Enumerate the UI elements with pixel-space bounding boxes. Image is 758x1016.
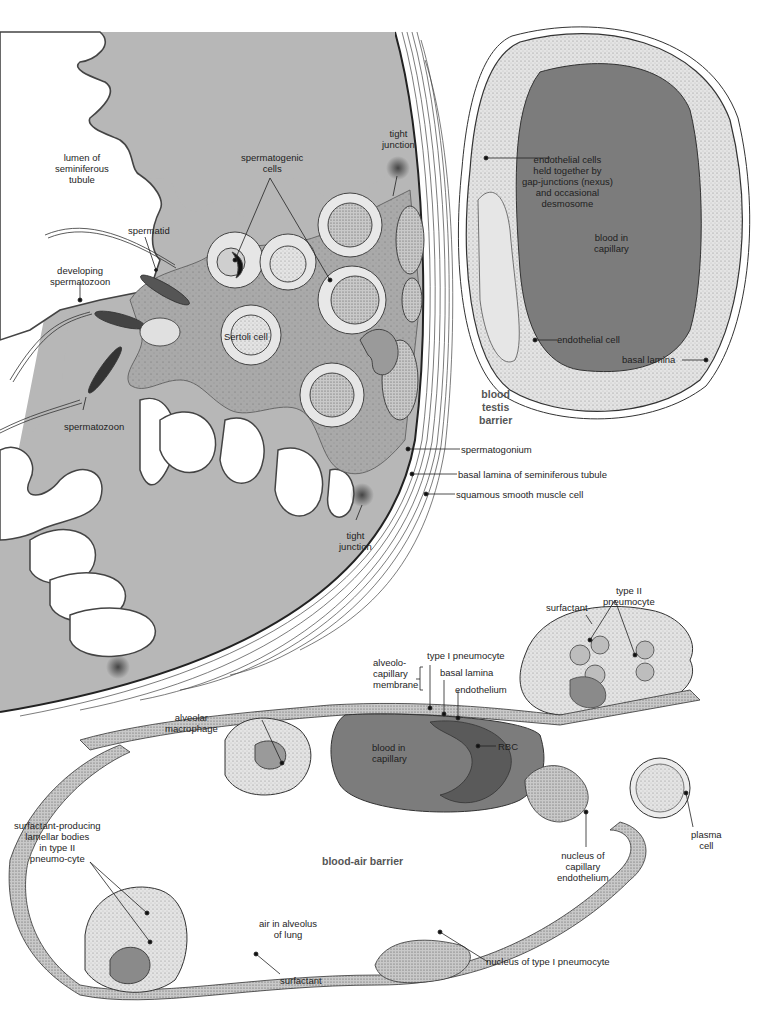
label-alveolo-capillary-membrane: alveolo- capillary membrane: [373, 657, 418, 690]
label-spermatogenic-cells: spermatogenic cells: [241, 152, 303, 174]
label-rbc: RBC: [498, 741, 518, 752]
label-endothelial-cell: endothelial cell: [557, 334, 620, 345]
label-blood-in-capillary-lung: blood in capillary: [372, 742, 407, 764]
label-endothelium: endothelium: [455, 684, 507, 695]
label-sertoli-cell: Sertoli cell: [224, 331, 268, 342]
label-air-in-alveolus: air in alveolus of lung: [259, 918, 317, 940]
label-surfactant-top: surfactant: [546, 602, 588, 613]
label-basal-lamina-capillary: basal lamina: [622, 354, 675, 365]
label-alveolar-macrophage: alveolar macrophage: [165, 712, 218, 734]
label-spermatid: spermatid: [128, 225, 170, 236]
label-tight-junction-top: tight junction: [382, 128, 415, 150]
label-type1-pneumocyte: type I pneumocyte: [427, 650, 505, 661]
label-endothelial-cells-junction: endothelial cells held together by gap-j…: [522, 154, 613, 209]
label-developing-spermatozoon: developing spermatozoon: [50, 265, 110, 287]
label-nucleus-type1: nucleus of type I pneumocyte: [486, 956, 610, 967]
label-lumen: lumen of seminiferous tubule: [55, 152, 109, 185]
label-type2-pneumocyte: type II pneumocyte: [603, 585, 655, 607]
label-spermatogonium: spermatogonium: [461, 444, 532, 455]
label-basal-lamina-lung: basal lamina: [440, 667, 493, 678]
panel-title-blood-air-barrier: blood-air barrier: [322, 855, 403, 868]
label-nucleus-capillary-endothelium: nucleus of capillary endothelium: [557, 850, 609, 883]
label-spermatozoon: spermatozoon: [64, 421, 124, 432]
label-plasma-cell: plasma cell: [691, 829, 722, 851]
panel-title-blood-testis-barrier: blood testis barrier: [479, 388, 512, 427]
label-tight-junction-bottom: tight junction: [339, 530, 372, 552]
label-surfactant-bottom: surfactant: [280, 975, 322, 986]
label-squamous-smooth-muscle: squamous smooth muscle cell: [456, 489, 583, 500]
label-basal-lamina-tubule: basal lamina of seminiferous tubule: [458, 469, 607, 480]
label-blood-in-capillary-testis: blood in capillary: [594, 232, 629, 254]
label-surfactant-producing: surfactant-producing lamellar bodies in …: [14, 820, 101, 864]
